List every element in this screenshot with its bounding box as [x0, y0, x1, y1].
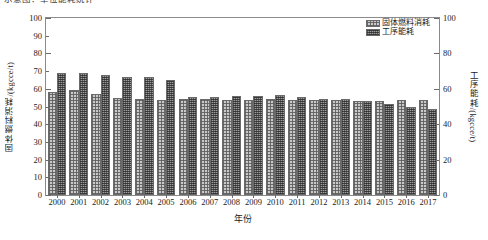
y-axis-left-tick-label: 20 — [34, 155, 47, 164]
bar-process-energy — [428, 109, 437, 195]
legend-item: 工序能耗 — [366, 28, 430, 36]
bar-solid-fuel — [288, 100, 297, 195]
x-axis-tick-label: 2005 — [158, 198, 175, 207]
bar-process-energy — [79, 73, 88, 195]
y-axis-right-tick-label: 100 — [439, 14, 456, 23]
bar-group — [395, 18, 417, 195]
bar-solid-fuel — [200, 99, 209, 195]
bar-group — [308, 18, 330, 195]
y-axis-right-tick-label: 20 — [439, 155, 452, 164]
y-axis-left-tick-label: 70 — [34, 67, 47, 76]
bar-process-energy — [57, 73, 66, 195]
bar-process-energy — [384, 104, 393, 195]
x-axis-tick-label: 2014 — [354, 198, 371, 207]
bar-process-energy — [253, 96, 262, 195]
bar-process-energy — [210, 97, 219, 195]
legend-label: 固体燃料消耗 — [382, 19, 430, 27]
bar-group — [264, 18, 286, 195]
bar-process-energy — [166, 80, 175, 195]
bar-group — [373, 18, 395, 195]
bar-group — [111, 18, 133, 195]
chart-figure: 示意图：单位能耗统计 固体燃料消耗/(kgcce/t) 工序能耗/(kgcce/… — [0, 0, 488, 240]
bar-solid-fuel — [309, 100, 318, 195]
y-axis-left-tick-label: 50 — [34, 102, 47, 111]
bar-solid-fuel — [331, 100, 340, 195]
bar-group — [352, 18, 374, 195]
x-axis-tick-label: 2015 — [376, 198, 393, 207]
x-axis-tick-label: 2010 — [267, 198, 284, 207]
bar-solid-fuel — [113, 98, 122, 195]
bar-solid-fuel — [48, 92, 57, 195]
bar-group — [46, 18, 68, 195]
bar-group — [155, 18, 177, 195]
x-axis-tick-label: 2003 — [114, 198, 131, 207]
x-axis-tick-label: 2013 — [332, 198, 349, 207]
y-axis-left-tick-label: 80 — [34, 49, 47, 58]
bar-process-energy — [232, 96, 241, 195]
x-axis-tick-label: 2001 — [70, 198, 87, 207]
y-axis-left-tick-mark — [46, 195, 51, 196]
x-axis-tick-label: 2007 — [201, 198, 218, 207]
bar-solid-fuel — [222, 100, 231, 195]
bar-group — [417, 18, 439, 195]
y-axis-left-tick-label: 100 — [29, 14, 46, 23]
x-axis-tick-label: 2008 — [223, 198, 240, 207]
y-axis-left-label-text: 固体燃料消耗/(kgcce/t) — [4, 62, 16, 152]
plot-area: 0102030405060708090100 020406080100 2000… — [45, 17, 440, 196]
y-axis-left-tick-label: 60 — [34, 85, 47, 94]
y-axis-left-tick-label: 0 — [38, 191, 46, 200]
y-axis-left-tick-label: 90 — [34, 31, 47, 40]
x-axis-tick-label: 2009 — [245, 198, 262, 207]
bar-solid-fuel — [157, 100, 166, 195]
y-axis-right-tick-label: 80 — [439, 49, 452, 58]
bar-solid-fuel — [69, 90, 78, 195]
bar-group — [177, 18, 199, 195]
bar-process-energy — [122, 77, 131, 195]
x-axis-tick-label: 2016 — [398, 198, 415, 207]
bar-group — [68, 18, 90, 195]
x-axis-tick-label: 2004 — [136, 198, 153, 207]
bar-solid-fuel — [91, 94, 100, 195]
bar-group — [133, 18, 155, 195]
x-axis-tick-label: 2017 — [420, 198, 437, 207]
x-axis-tick-label: 2000 — [48, 198, 65, 207]
y-axis-right-tick-label: 40 — [439, 120, 452, 129]
y-axis-left-label: 固体燃料消耗/(kgcce/t) — [4, 17, 16, 196]
bar-solid-fuel — [179, 99, 188, 195]
bar-process-energy — [363, 101, 372, 195]
x-axis-tick-label: 2011 — [289, 198, 306, 207]
bar-group — [286, 18, 308, 195]
bar-solid-fuel — [419, 100, 428, 195]
bar-process-energy — [319, 99, 328, 195]
y-axis-right-tick-label: 0 — [439, 191, 447, 200]
bar-solid-fuel — [375, 101, 384, 195]
x-axis-tick-label: 2002 — [92, 198, 109, 207]
y-axis-right-tick-label: 60 — [439, 85, 452, 94]
bar-solid-fuel — [244, 100, 253, 195]
legend-swatch — [366, 29, 380, 36]
y-axis-left-tick-label: 40 — [34, 120, 47, 129]
y-axis-right-label-text: 工序能耗/(kgcce/t) — [467, 71, 479, 142]
legend-item: 固体燃料消耗 — [366, 19, 430, 27]
y-axis-left-tick-label: 10 — [34, 173, 47, 182]
chart-legend: 固体燃料消耗工序能耗 — [366, 19, 430, 36]
figure-caption: 示意图：单位能耗统计 — [4, 0, 204, 4]
bar-group — [242, 18, 264, 195]
bar-group — [90, 18, 112, 195]
legend-label: 工序能耗 — [382, 28, 414, 36]
x-axis-label: 年份 — [45, 212, 440, 225]
bar-process-energy — [188, 97, 197, 195]
bar-group — [199, 18, 221, 195]
bar-solid-fuel — [353, 101, 362, 195]
x-axis-tick-label: 2006 — [179, 198, 196, 207]
legend-swatch — [366, 20, 380, 27]
bar-solid-fuel — [397, 100, 406, 195]
y-axis-left-tick-label: 30 — [34, 138, 47, 147]
bar-process-energy — [275, 95, 284, 195]
bar-process-energy — [144, 77, 153, 195]
bar-solid-fuel — [135, 99, 144, 195]
bar-group — [330, 18, 352, 195]
bar-process-energy — [101, 75, 110, 195]
bar-solid-fuel — [266, 99, 275, 195]
x-axis-tick-label: 2012 — [310, 198, 327, 207]
